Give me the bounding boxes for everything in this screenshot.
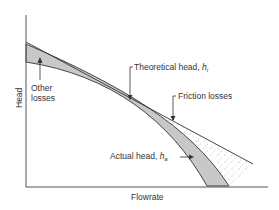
theoretical-head-line bbox=[26, 42, 253, 164]
pump-head-diagram: Theoretical head, hi Friction losses Oth… bbox=[0, 0, 279, 210]
diagram-svg: Theoretical head, hi Friction losses Oth… bbox=[0, 0, 279, 210]
y-axis-label: Head bbox=[14, 87, 24, 108]
theoretical-leader bbox=[130, 67, 133, 99]
other-losses-label-2: losses bbox=[31, 93, 55, 103]
actual-head-label: Actual head, ha bbox=[110, 151, 168, 162]
x-axis-label: Flowrate bbox=[131, 192, 164, 202]
friction-losses-label: Friction losses bbox=[178, 91, 232, 101]
theoretical-head-label: Theoretical head, hi bbox=[134, 62, 209, 73]
other-losses-label-1: Other bbox=[31, 83, 52, 93]
